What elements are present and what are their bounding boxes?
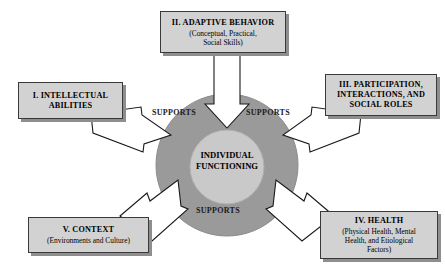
box-title: V. CONTEXT	[63, 225, 114, 235]
supports-label-right: SUPPORTS	[246, 108, 290, 117]
box-adaptive-behavior: II. ADAPTIVE BEHAVIOR (Conceptual, Pract…	[160, 11, 286, 53]
box-participation-interactions-social-roles: III. PARTICIPATION, INTERACTIONS, AND SO…	[325, 74, 437, 116]
box-context: V. CONTEXT (Environments and Culture)	[28, 217, 149, 253]
box-health: IV. HEALTH (Physical Health, Mental Heal…	[320, 211, 438, 259]
box-subtitle: (Environments and Culture)	[47, 236, 130, 245]
supports-label-bottom: SUPPORTS	[196, 206, 240, 215]
box-title: II. ADAPTIVE BEHAVIOR	[172, 18, 275, 28]
individual-functioning-label: INDIVIDUAL FUNCTIONING	[177, 150, 277, 172]
box-title: IV. HEALTH	[355, 216, 403, 226]
box-intellectual-abilities: I. INTELLECTUAL ABILITIES	[18, 82, 123, 119]
diagram-canvas: INDIVIDUAL FUNCTIONING SUPPORTS SUPPORTS…	[0, 0, 445, 276]
box-title: III. PARTICIPATION, INTERACTIONS, AND SO…	[337, 80, 425, 110]
box-title: I. INTELLECTUAL ABILITIES	[33, 91, 108, 111]
box-subtitle: (Conceptual, Practical, Social Skills)	[189, 29, 257, 47]
supports-label-left: SUPPORTS	[152, 108, 196, 117]
box-subtitle: (Physical Health, Mental Health, and Eti…	[342, 227, 416, 254]
